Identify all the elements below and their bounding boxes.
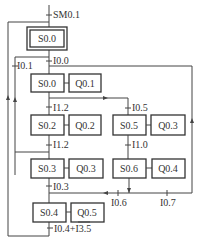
transition-i03-label: I0.3 (53, 181, 69, 192)
arrow-right-icon (103, 96, 108, 100)
transition-i06-label: I0.6 (111, 197, 127, 208)
step-s06-label: S0.6 (120, 163, 138, 174)
step-s05-label: S0.5 (120, 120, 138, 131)
step-s03-label: S0.3 (38, 163, 56, 174)
transition-i12b-label: I1.2 (53, 139, 69, 150)
transition-sm01-label: SM0.1 (53, 9, 80, 20)
transition-i00-label: I0.0 (53, 55, 69, 66)
action-q05-label: Q0.5 (77, 207, 97, 218)
sfc-diagram: SM0.1 S0.0 I0.1 I0.0 S0.0 Q0.1 I1.2 I0.5… (0, 0, 197, 245)
arrow-down-icon (127, 188, 131, 193)
arrow-up-icon (13, 97, 17, 102)
transition-i12a-label: I1.2 (53, 102, 69, 113)
action-q01-label: Q0.1 (75, 78, 95, 89)
arrow-left-icon (103, 191, 108, 195)
transition-i07-label: I0.7 (160, 197, 176, 208)
transition-last-label: I0.4+I3.5 (54, 223, 91, 234)
transition-i05-label: I0.5 (132, 102, 148, 113)
action-q04-label: Q0.4 (158, 163, 178, 174)
step-s02-label: S0.2 (38, 120, 56, 131)
arrow-up-icon (6, 95, 10, 100)
step-s04-label: S0.4 (40, 207, 58, 218)
action-q03b-label: Q0.3 (76, 163, 96, 174)
transition-i01-label: I0.1 (17, 60, 33, 71)
initial-step-label: S0.0 (38, 33, 56, 44)
action-q02-label: Q0.2 (75, 120, 95, 131)
arrow-up-icon (190, 118, 194, 123)
transition-i10-label: I1.0 (132, 139, 148, 150)
step-s00-label: S0.0 (38, 78, 56, 89)
action-q03a-label: Q0.3 (158, 120, 178, 131)
